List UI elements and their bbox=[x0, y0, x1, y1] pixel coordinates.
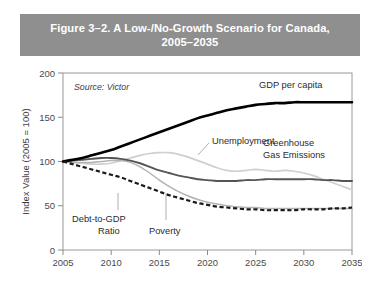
y-tick-label-100: 100 bbox=[39, 156, 55, 167]
y-tick-label-50: 50 bbox=[44, 200, 55, 211]
label-poverty: Poverty bbox=[149, 226, 181, 236]
y-tick-label-150: 150 bbox=[39, 112, 55, 123]
x-tick-label-2030: 2030 bbox=[293, 257, 314, 268]
figure-title-banner: Figure 3–2. A Low-/No-Growth Scenario fo… bbox=[20, 14, 360, 56]
label-gdp-per-capita: GDP per capita bbox=[259, 80, 323, 90]
chart-card: 200 150 100 50 0 Index Value (2005 = 100… bbox=[16, 60, 362, 276]
label-greenhouse-line-1: Greenhouse bbox=[263, 138, 314, 148]
figure-title-line-1: Figure 3–2. A Low-/No-Growth Scenario fo… bbox=[50, 21, 329, 35]
source-note: Source: Victor bbox=[74, 82, 130, 92]
x-tick-label-2025: 2025 bbox=[245, 257, 266, 268]
x-axis: 2005 2010 2015 2020 2025 2030 2035 bbox=[52, 250, 362, 268]
label-debt-to-gdp-line-2: Ratio bbox=[98, 226, 120, 236]
y-tick-label-0: 0 bbox=[50, 245, 55, 256]
x-tick-label-2010: 2010 bbox=[101, 257, 122, 268]
x-tick-label-2035: 2035 bbox=[341, 257, 362, 268]
y-axis-title: Index Value (2005 = 100) bbox=[20, 108, 31, 214]
figure-title-line-2: 2005–2035 bbox=[162, 35, 219, 49]
line-chart: 200 150 100 50 0 Index Value (2005 = 100… bbox=[16, 60, 362, 276]
figure-container: Figure 3–2. A Low-/No-Growth Scenario fo… bbox=[0, 0, 374, 284]
x-tick-label-2020: 2020 bbox=[197, 257, 218, 268]
y-axis: 200 150 100 50 0 bbox=[39, 68, 63, 256]
x-tick-label-2015: 2015 bbox=[149, 257, 170, 268]
label-greenhouse-line-2: Gas Emissions bbox=[263, 150, 325, 160]
x-tick-label-2005: 2005 bbox=[52, 257, 73, 268]
label-debt-to-gdp-line-1: Debt-to-GDP bbox=[72, 214, 126, 224]
y-tick-label-200: 200 bbox=[39, 68, 55, 79]
